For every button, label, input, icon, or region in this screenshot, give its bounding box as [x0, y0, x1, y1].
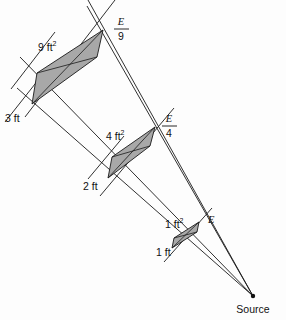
inverse-square-law-diagram: 9 ft2 4 ft2 1 ft2 3 ft 2 ft 1 ft E 9 E 4… [0, 0, 286, 320]
source-label: Source [236, 303, 269, 315]
source-point [251, 294, 255, 298]
distance-label-2ft: 2 ft [83, 180, 98, 192]
intensity-9-numerator: E [117, 16, 125, 27]
panel-1ft-area-label: 1 ft2 [165, 217, 184, 230]
intensity-9-denominator: 9 [118, 30, 124, 42]
intensity-4-numerator: E [165, 113, 173, 124]
panel-4ft-area-label: 4 ft2 [106, 129, 125, 142]
diagram-canvas: 9 ft2 4 ft2 1 ft2 3 ft 2 ft 1 ft E 9 E 4… [0, 0, 286, 320]
intensity-4-denominator: 4 [166, 127, 172, 139]
distance-label-1ft: 1 ft [156, 246, 171, 258]
distance-label-3ft: 3 ft [5, 112, 20, 124]
intensity-label-e-over-9: E 9 [114, 16, 129, 41]
panel-9ft-area-label: 9 ft2 [38, 40, 57, 53]
intensity-label-e: E [207, 214, 215, 225]
intensity-label-e-over-4: E 4 [162, 113, 177, 138]
ray-bottom [17, 88, 253, 296]
